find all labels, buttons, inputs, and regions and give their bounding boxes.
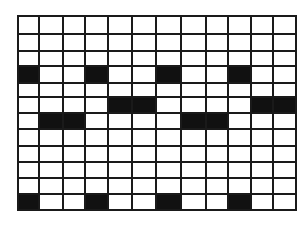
grid-cell-empty xyxy=(85,178,108,194)
grid-cell-empty xyxy=(18,83,39,97)
grid-cell-empty xyxy=(206,66,228,83)
grid-cell-empty xyxy=(181,97,206,113)
grid-cell-empty xyxy=(39,16,63,34)
grid-cell-empty xyxy=(156,146,181,162)
grid-cell-empty xyxy=(206,16,228,34)
grid-cell-filled xyxy=(181,113,206,129)
grid-cell-filled xyxy=(85,66,108,83)
grid-cell-empty xyxy=(228,34,251,51)
grid-cell-empty xyxy=(251,194,273,210)
grid-cell-empty xyxy=(132,194,156,210)
grid-cell-filled xyxy=(63,113,85,129)
grid-cell-empty xyxy=(206,162,228,178)
grid-cell-empty xyxy=(85,16,108,34)
grid-cell-empty xyxy=(206,97,228,113)
grid-line-horizontal xyxy=(17,15,297,17)
grid-cell-empty xyxy=(63,178,85,194)
grid-cell-empty xyxy=(228,162,251,178)
grid-line-horizontal xyxy=(17,65,297,67)
grid-cell-empty xyxy=(63,51,85,66)
grid-cell-empty xyxy=(39,129,63,146)
grid-cell-empty xyxy=(181,194,206,210)
grid-cell-empty xyxy=(39,51,63,66)
grid-cell-empty xyxy=(63,129,85,146)
grid-cell-filled xyxy=(85,194,108,210)
grid-line-horizontal xyxy=(17,112,297,114)
grid-cell-filled xyxy=(18,194,39,210)
grid-cell-empty xyxy=(108,129,132,146)
grid-cell-empty xyxy=(108,51,132,66)
grid-cell-empty xyxy=(251,146,273,162)
grid-cell-empty xyxy=(181,16,206,34)
grid-cell-filled xyxy=(206,113,228,129)
grid-cell-empty xyxy=(108,194,132,210)
grid-cell-empty xyxy=(273,129,296,146)
grid-cell-empty xyxy=(108,34,132,51)
grid-cell-filled xyxy=(251,97,273,113)
grid-cell-empty xyxy=(39,146,63,162)
grid-cell-filled xyxy=(228,66,251,83)
grid-cell-empty xyxy=(108,162,132,178)
grid-cell-empty xyxy=(132,16,156,34)
grid-cell-empty xyxy=(85,129,108,146)
grid-cell-filled xyxy=(156,194,181,210)
grid-cell-empty xyxy=(251,83,273,97)
grid-cell-empty xyxy=(108,66,132,83)
grid-cell-empty xyxy=(132,66,156,83)
grid-cell-empty xyxy=(156,129,181,146)
grid-cell-empty xyxy=(85,83,108,97)
grid-cell-empty xyxy=(273,66,296,83)
grid-cell-empty xyxy=(108,16,132,34)
grid-cell-empty xyxy=(273,34,296,51)
grid-line-horizontal xyxy=(17,161,297,163)
grid-cell-empty xyxy=(108,146,132,162)
grid-line-horizontal xyxy=(17,128,297,130)
grid-cell-empty xyxy=(63,146,85,162)
grid-cell-empty xyxy=(85,146,108,162)
grid-cell-empty xyxy=(181,178,206,194)
grid-cell-empty xyxy=(251,113,273,129)
grid-cell-empty xyxy=(228,178,251,194)
grid-cell-empty xyxy=(228,83,251,97)
grid-cell-empty xyxy=(132,129,156,146)
grid-cell-filled xyxy=(228,194,251,210)
grid-cell-empty xyxy=(273,194,296,210)
grid-cell-filled xyxy=(18,66,39,83)
grid-cell-empty xyxy=(39,97,63,113)
grid-cell-empty xyxy=(156,83,181,97)
grid-cell-empty xyxy=(181,146,206,162)
grid-cell-empty xyxy=(85,34,108,51)
grid-cell-empty xyxy=(181,66,206,83)
grid-cell-filled xyxy=(273,97,296,113)
grid-cell-empty xyxy=(273,178,296,194)
grid-cell-empty xyxy=(156,16,181,34)
grid-cell-empty xyxy=(63,16,85,34)
grid-cell-empty xyxy=(206,34,228,51)
grid-cell-empty xyxy=(132,34,156,51)
grid-cell-empty xyxy=(156,113,181,129)
grid-cell-empty xyxy=(273,146,296,162)
grid-cell-empty xyxy=(108,113,132,129)
grid-cell-empty xyxy=(132,51,156,66)
grid-cell-empty xyxy=(39,178,63,194)
grid-cell-empty xyxy=(251,16,273,34)
grid-cell-empty xyxy=(39,66,63,83)
grid-cell-empty xyxy=(156,97,181,113)
grid-cell-empty xyxy=(228,51,251,66)
grid-cell-empty xyxy=(63,162,85,178)
grid-cell-empty xyxy=(228,16,251,34)
grid-cell-empty xyxy=(273,83,296,97)
grid-cell-empty xyxy=(63,97,85,113)
grid-cell-empty xyxy=(181,129,206,146)
grid-cell-empty xyxy=(206,194,228,210)
grid-cell-empty xyxy=(181,51,206,66)
grid-cell-empty xyxy=(85,162,108,178)
grid-cell-empty xyxy=(181,83,206,97)
grid-cell-empty xyxy=(63,34,85,51)
grid-cell-empty xyxy=(85,113,108,129)
grid-cell-empty xyxy=(206,129,228,146)
grid-cell-empty xyxy=(228,97,251,113)
grid-cell-empty xyxy=(228,146,251,162)
grid-cell-empty xyxy=(251,162,273,178)
grid-cell-empty xyxy=(228,113,251,129)
